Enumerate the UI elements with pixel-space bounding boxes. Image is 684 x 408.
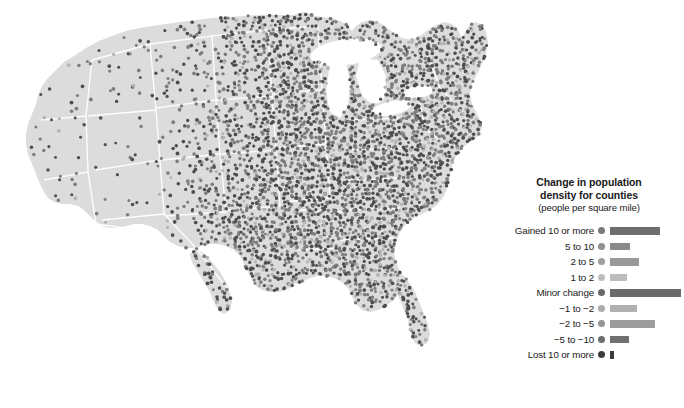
county-dot (407, 46, 410, 49)
county-dot (270, 45, 273, 48)
map-svg (0, 0, 500, 408)
county-dot (270, 100, 274, 104)
county-dot (245, 144, 249, 148)
county-dot (195, 49, 198, 52)
county-dot (374, 145, 377, 148)
county-dot (406, 57, 409, 60)
county-dot (270, 263, 273, 266)
county-dot (365, 216, 369, 220)
county-dot (191, 210, 194, 213)
county-dot (402, 298, 406, 302)
legend-row[interactable]: Lost 10 or more (498, 347, 684, 363)
county-dot (268, 53, 271, 56)
county-dot (257, 40, 261, 44)
county-dot (228, 119, 232, 123)
county-dot (452, 58, 455, 61)
county-dot (299, 228, 302, 231)
county-dot (221, 169, 224, 172)
county-dot (326, 274, 329, 277)
county-dot (422, 128, 425, 131)
county-dot (290, 194, 294, 198)
county-dot (257, 65, 261, 69)
county-dot (359, 38, 362, 41)
county-dot (179, 25, 183, 29)
county-dot (255, 29, 259, 33)
legend-row[interactable]: Minor change (498, 285, 684, 301)
county-dot (212, 125, 216, 129)
county-dot (302, 248, 306, 252)
county-dot (404, 54, 407, 57)
county-dot (292, 156, 296, 160)
county-dot (225, 45, 228, 48)
county-dot (407, 102, 410, 105)
county-dot (295, 33, 299, 37)
county-dot (290, 100, 294, 104)
county-dot (389, 240, 392, 243)
legend-row[interactable]: −1 to −2 (498, 301, 684, 317)
county-dot (332, 172, 335, 175)
county-dot (255, 117, 258, 120)
county-dot (386, 292, 389, 295)
county-dot (263, 277, 267, 281)
county-dot (206, 73, 209, 76)
legend-row[interactable]: −5 to −10 (498, 332, 684, 348)
county-dot (214, 113, 218, 117)
legend-row[interactable]: Gained 10 or more (498, 223, 684, 239)
county-dot (452, 110, 455, 113)
county-dot (282, 25, 285, 28)
county-dot (278, 228, 281, 231)
legend-swatch-dot-icon (598, 227, 605, 234)
legend-row-label: 2 to 5 (498, 256, 598, 267)
county-dot (286, 226, 289, 229)
county-dot (406, 197, 409, 200)
county-dot (361, 112, 364, 115)
county-dot (370, 299, 373, 302)
county-dot (350, 292, 353, 295)
legend-row[interactable]: 2 to 5 (498, 254, 684, 270)
county-dot (374, 300, 377, 303)
county-dot (262, 47, 266, 51)
county-dot (285, 132, 289, 136)
county-dot (418, 40, 422, 44)
county-dot (470, 36, 474, 40)
county-dot (186, 119, 189, 122)
county-dot (358, 94, 361, 97)
county-dot (245, 235, 249, 239)
county-dot (345, 36, 349, 40)
county-dot (435, 84, 438, 87)
county-dot (210, 128, 214, 132)
legend-row[interactable]: 5 to 10 (498, 239, 684, 255)
county-dot (332, 196, 335, 199)
county-dot (424, 104, 428, 108)
county-dot (422, 68, 425, 71)
county-dot (283, 117, 286, 120)
county-dot (392, 32, 395, 35)
county-dot (180, 104, 183, 107)
county-dot (391, 131, 395, 135)
county-dot (208, 262, 212, 266)
county-dot (135, 44, 138, 47)
county-dot (243, 257, 247, 261)
county-dot (438, 125, 441, 128)
county-dot (356, 36, 359, 39)
county-dot (310, 136, 314, 140)
county-dot (208, 60, 212, 64)
county-dot (397, 191, 400, 194)
county-dot (216, 73, 219, 76)
county-dot (309, 122, 313, 126)
county-dot (215, 177, 218, 180)
county-dot (203, 24, 206, 27)
county-dot (270, 172, 274, 176)
county-dot (446, 181, 449, 184)
county-dot (417, 329, 420, 332)
legend-row[interactable]: 1 to 2 (498, 270, 684, 286)
county-dot (354, 273, 358, 277)
county-dot (257, 137, 261, 141)
county-dot (264, 68, 268, 72)
county-dot (243, 216, 246, 219)
county-dot (215, 199, 218, 202)
county-dot (454, 102, 458, 106)
county-dot (400, 84, 403, 87)
legend-row[interactable]: −2 to −5 (498, 316, 684, 332)
county-dot (70, 109, 74, 113)
